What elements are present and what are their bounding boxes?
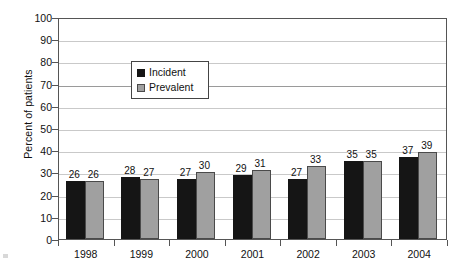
y-tick-label-80: 80: [12, 57, 52, 67]
x-tick-label-2002: 2002: [278, 249, 338, 260]
bar-prevalent-1999: [140, 179, 159, 239]
y-tick-label-10: 10: [12, 213, 52, 223]
legend-swatch-prevalent-icon: [137, 84, 145, 92]
y-tick-label-70: 70: [12, 80, 52, 90]
value-label-prevalent-1999: 27: [134, 168, 164, 178]
gridline-90: [59, 41, 446, 42]
x-tick-label-1999: 1999: [111, 249, 171, 260]
legend-item-incident: Incident: [137, 65, 203, 80]
bar-prevalent-2004: [418, 152, 437, 239]
value-label-prevalent-2001: 31: [245, 159, 275, 169]
legend-swatch-incident-icon: [137, 69, 145, 77]
y-tick-label-0: 0: [12, 235, 52, 245]
y-tick-mark-20: [52, 196, 58, 197]
bar-prevalent-1998: [85, 181, 104, 239]
plot-area: [58, 18, 447, 240]
y-tick-mark-40: [52, 151, 58, 152]
bar-incident-1998: [66, 181, 85, 239]
gridline-70: [59, 86, 446, 87]
y-tick-mark-70: [52, 85, 58, 86]
x-tick-mark-2: [169, 240, 170, 246]
x-tick-label-2004: 2004: [389, 249, 449, 260]
value-label-prevalent-2004: 39: [412, 141, 442, 151]
legend-item-prevalent: Prevalent: [137, 80, 203, 95]
x-tick-label-2001: 2001: [223, 249, 283, 260]
y-tick-label-90: 90: [12, 35, 52, 45]
value-label-prevalent-2002: 33: [301, 155, 331, 165]
bar-incident-2003: [344, 161, 363, 239]
y-tick-mark-100: [52, 18, 58, 19]
value-label-prevalent-2000: 30: [189, 161, 219, 171]
gridline-80: [59, 63, 446, 64]
bar-prevalent-2000: [196, 172, 215, 239]
bar-incident-2002: [288, 179, 307, 239]
y-tick-label-20: 20: [12, 191, 52, 201]
bar-incident-2000: [177, 179, 196, 239]
y-tick-label-60: 60: [12, 102, 52, 112]
y-tick-mark-50: [52, 129, 58, 130]
gridline-40: [59, 152, 446, 153]
value-label-prevalent-2003: 35: [356, 150, 386, 160]
bar-prevalent-2001: [252, 170, 271, 239]
x-tick-mark-7: [447, 240, 448, 246]
bar-prevalent-2003: [363, 161, 382, 239]
bar-incident-2004: [399, 157, 418, 239]
y-tick-mark-30: [52, 173, 58, 174]
legend-label-prevalent: Prevalent: [149, 82, 193, 93]
x-tick-mark-1: [114, 240, 115, 246]
x-tick-mark-6: [391, 240, 392, 246]
x-tick-label-2003: 2003: [334, 249, 394, 260]
gridline-50: [59, 130, 446, 131]
bar-incident-1999: [121, 177, 140, 239]
x-tick-mark-5: [336, 240, 337, 246]
y-tick-mark-80: [52, 62, 58, 63]
gridline-60: [59, 108, 446, 109]
x-tick-label-1998: 1998: [56, 249, 116, 260]
bar-chart: Percent of patients 10090807060504030201…: [0, 0, 466, 275]
value-label-incident-2002: 27: [282, 168, 312, 178]
x-tick-label-2000: 2000: [167, 249, 227, 260]
legend-label-incident: Incident: [149, 67, 186, 78]
y-tick-label-50: 50: [12, 124, 52, 134]
x-tick-mark-4: [280, 240, 281, 246]
x-tick-mark-3: [225, 240, 226, 246]
x-tick-mark-0: [58, 240, 59, 246]
y-tick-mark-90: [52, 40, 58, 41]
bar-incident-2001: [233, 175, 252, 239]
y-tick-label-30: 30: [12, 168, 52, 178]
scan-artifact: [3, 254, 8, 258]
y-tick-label-40: 40: [12, 146, 52, 156]
value-label-prevalent-1998: 26: [78, 170, 108, 180]
chart-legend: Incident Prevalent: [131, 61, 209, 99]
y-tick-label-100: 100: [12, 13, 52, 23]
y-tick-mark-10: [52, 218, 58, 219]
y-tick-mark-60: [52, 107, 58, 108]
